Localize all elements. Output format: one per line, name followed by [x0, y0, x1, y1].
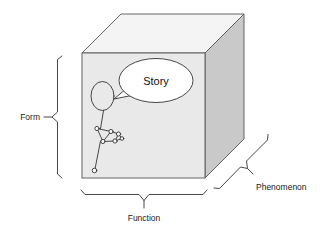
stick-figure-head — [91, 82, 114, 111]
stick-figure-joint — [113, 139, 117, 143]
stick-figure-joint — [95, 126, 99, 130]
diagram-canvas: Story Form Function Phenomenon — [0, 0, 331, 243]
form-axis-brace — [44, 56, 62, 178]
stick-figure-foot — [92, 168, 97, 173]
speech-bubble-text: Story — [143, 75, 169, 87]
stick-figure-joint — [101, 139, 105, 143]
stick-figure-joint — [120, 137, 124, 141]
function-axis-brace — [81, 190, 207, 208]
form-brace-path — [52, 56, 62, 178]
stick-figure-joint — [109, 129, 113, 133]
stick-figure-joint — [116, 132, 120, 136]
phenomenon-brace-leader — [248, 169, 254, 175]
function-brace-path — [81, 190, 207, 201]
cube-framework-diagram: Story Form Function Phenomenon — [0, 0, 331, 243]
phenomenon-axis-label: Phenomenon — [256, 182, 307, 192]
function-axis-label: Function — [128, 213, 161, 223]
form-axis-label: Form — [20, 112, 40, 122]
